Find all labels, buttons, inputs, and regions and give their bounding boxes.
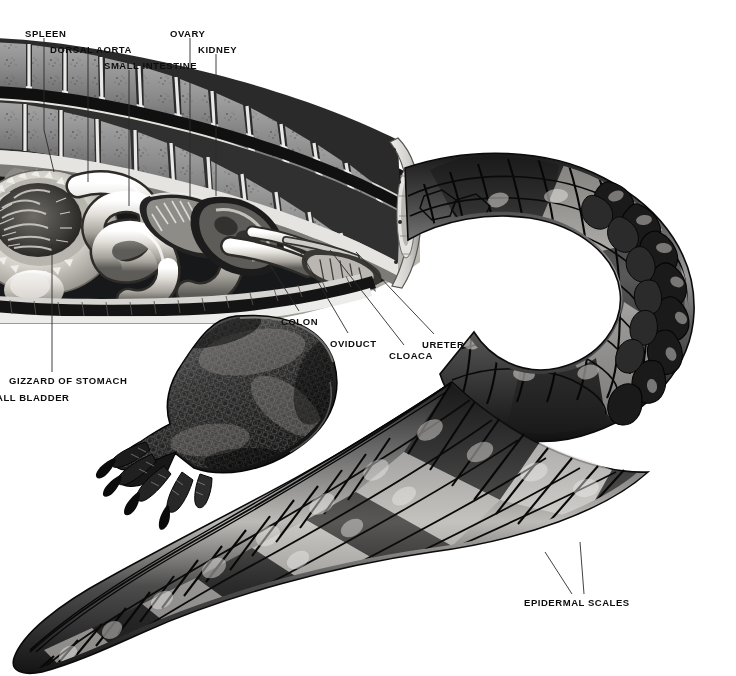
label-small-intestine: SMALL INTESTINE	[104, 60, 197, 71]
label-cloaca: CLOACA	[389, 350, 433, 361]
label-ureter: URETER	[422, 339, 464, 350]
label-oviduct: OVIDUCT	[330, 338, 377, 349]
anatomy-figure: SPLEEN DORSAL AORTA SMALL INTESTINE OVAR…	[0, 0, 736, 676]
label-gall-bladder: ALL BLADDER	[0, 392, 69, 403]
label-epidermal-scales: EPIDERMAL SCALES	[524, 597, 630, 608]
label-ovary: OVARY	[170, 28, 205, 39]
label-kidney: KIDNEY	[198, 44, 237, 55]
label-colon: COLON	[281, 316, 318, 327]
label-dorsal-aorta: DORSAL AORTA	[50, 44, 132, 55]
label-gizzard-of-stomach: GIZZARD OF STOMACH	[9, 375, 127, 386]
label-spleen: SPLEEN	[25, 28, 66, 39]
